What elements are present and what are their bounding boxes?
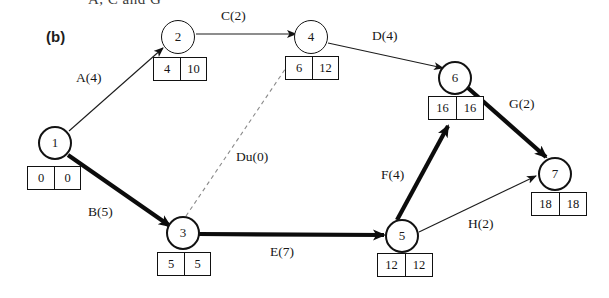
edge-label-H: H(2) — [468, 216, 494, 232]
node-5-label: 5 — [385, 219, 419, 253]
node-2-time-box: 4 10 — [153, 57, 207, 81]
node-3-earliest: 5 — [158, 253, 184, 275]
node-3-label: 3 — [166, 216, 200, 250]
node-7-label: 7 — [538, 157, 572, 191]
node-1-earliest: 0 — [28, 167, 54, 189]
node-4-earliest: 6 — [286, 57, 312, 79]
node-5-time-box: 12 12 — [377, 253, 433, 277]
node-3-time-box: 5 5 — [157, 252, 211, 276]
node-1-label: 1 — [38, 126, 72, 160]
edge-A — [69, 48, 163, 131]
node-7-time-box: 18 18 — [531, 192, 587, 216]
node-7-earliest: 18 — [532, 193, 559, 215]
edge-B — [68, 155, 170, 226]
edge-label-A: A(4) — [76, 70, 102, 86]
node-2-latest: 10 — [180, 58, 206, 80]
node-1-time-box: 0 0 — [27, 166, 81, 190]
node-2-label: 2 — [161, 20, 195, 54]
edge-label-B: B(5) — [88, 204, 113, 220]
edge-D — [328, 43, 443, 68]
edge-F — [397, 126, 448, 220]
node-4-label: 4 — [294, 20, 328, 54]
node-6-label: 6 — [438, 61, 472, 95]
edge-E — [199, 234, 384, 235]
node-1-latest: 0 — [54, 167, 80, 189]
edge-label-D: D(4) — [372, 28, 398, 44]
node-2-earliest: 4 — [154, 58, 180, 80]
edge-label-C: C(2) — [221, 8, 246, 24]
node-6-latest: 16 — [456, 97, 483, 119]
node-3-latest: 5 — [184, 253, 210, 275]
node-5-earliest: 12 — [378, 254, 405, 276]
node-4-time-box: 6 12 — [285, 56, 339, 80]
edge-label-E: E(7) — [270, 244, 294, 260]
edge-Du — [186, 59, 292, 216]
node-6-time-box: 16 16 — [428, 96, 484, 120]
node-4-latest: 12 — [312, 57, 338, 79]
node-5-latest: 12 — [405, 254, 432, 276]
edge-label-F: F(4) — [381, 167, 404, 183]
node-7-latest: 18 — [559, 193, 586, 215]
edge-label-G: G(2) — [509, 96, 535, 112]
figure-canvas: A, C and G (b) — [0, 0, 609, 298]
node-6-earliest: 16 — [429, 97, 456, 119]
edge-label-Du: Du(0) — [236, 149, 268, 165]
